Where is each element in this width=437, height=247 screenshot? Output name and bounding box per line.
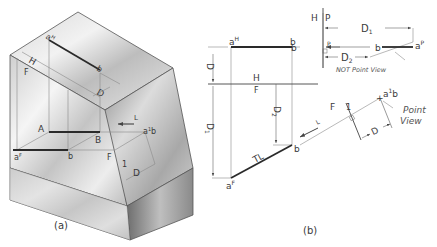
descriptive-geometry-figure: aH b H F D A B aF b F 1 L a1b D (a) <box>0 0 437 247</box>
label-D-aux: D <box>370 125 381 137</box>
label-D2-mid: D2 <box>271 106 282 117</box>
label-L-arrow: L <box>134 114 138 122</box>
panel-a-pictorial: aH b H F D A B aF b F 1 L a1b D (a) <box>10 12 193 240</box>
label-fold-HP-P: P <box>325 13 331 23</box>
label-D1-left: D1 <box>204 123 215 134</box>
label-bP: b <box>375 43 381 53</box>
label-B: B <box>95 135 101 145</box>
label-b-front: b <box>68 152 73 161</box>
label-ab1-point: a1b <box>383 87 398 99</box>
label-bF: b <box>294 144 300 154</box>
label-A: A <box>38 124 45 134</box>
label-F-aux: F <box>107 153 112 162</box>
label-fold-H: H <box>253 73 260 83</box>
label-L-arrow: L <box>314 118 321 126</box>
label-fold-F1-1: 1 <box>346 103 351 112</box>
label-fold-HP-H: H <box>311 13 318 23</box>
label-aP: aP <box>415 39 425 51</box>
label-fold-F1-F: F <box>330 102 335 112</box>
label-p-small: P <box>327 40 331 47</box>
label-aF: aF <box>226 179 236 191</box>
caption-a: (a) <box>54 220 68 231</box>
label-point-view-line1: Point <box>403 105 426 115</box>
label-D2-top: D2 <box>341 52 353 64</box>
label-not-point-view: NOT Point View <box>336 66 387 74</box>
label-fold-F: F <box>254 86 259 95</box>
label-D-aux: D <box>133 168 140 178</box>
label-TL: TL <box>250 151 265 165</box>
label-D1-top: D1 <box>361 23 373 35</box>
label-point-view-line2: View <box>400 116 422 126</box>
panel-b-orthographic: + aH b D H F D1 D2 TL b aF H P D1 b P b … <box>204 8 426 236</box>
label-b-profile-left: b <box>291 43 297 53</box>
label-1-aux: 1 <box>122 160 127 169</box>
caption-b: (b) <box>303 225 317 236</box>
label-D-left: D <box>205 63 215 70</box>
label-aH: aH <box>229 35 239 47</box>
label-F-fold: F <box>24 68 29 77</box>
